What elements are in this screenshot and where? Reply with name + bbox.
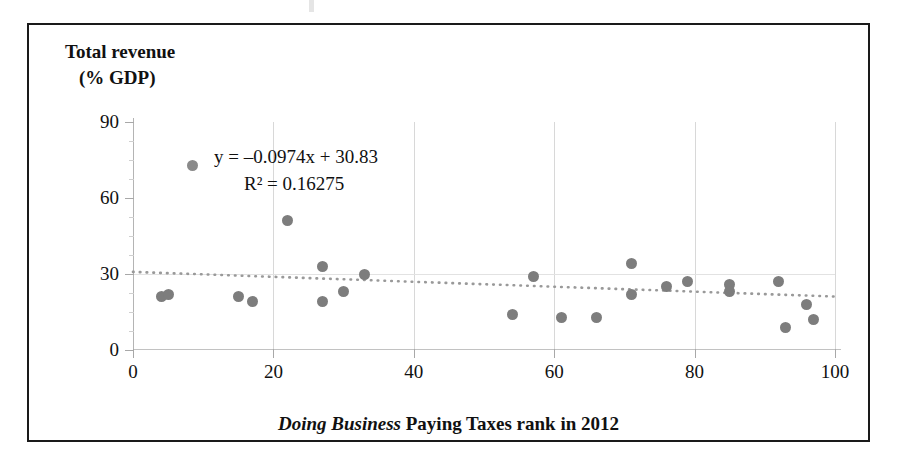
scatter-point — [626, 289, 637, 300]
scatter-point — [780, 322, 791, 333]
x-tick-label-40: 40 — [404, 361, 423, 383]
y-tick-label-60: 60 — [100, 187, 119, 209]
x-tick-label-80: 80 — [685, 361, 704, 383]
regression-r-squared: R² = 0.16275 — [214, 170, 378, 197]
x-tick-0 — [133, 349, 134, 358]
equation-legend-marker-icon — [187, 160, 198, 171]
x-tick-label-0: 0 — [128, 361, 138, 383]
y-axis-title: Total revenue (% GDP) — [65, 39, 175, 91]
x-tick-60 — [554, 349, 555, 358]
scatter-point — [528, 271, 539, 282]
regression-equation: y = –0.0974x + 30.83 — [214, 146, 378, 167]
scatter-point — [317, 261, 328, 272]
scatter-point — [163, 289, 174, 300]
gridline-x-100 — [835, 122, 836, 350]
x-tick-80 — [695, 349, 696, 358]
y-axis-title-line2: (% GDP) — [65, 65, 175, 91]
y-tick-label-90: 90 — [100, 111, 119, 133]
scatter-point — [359, 269, 370, 280]
x-tick-label-100: 100 — [821, 361, 850, 383]
scan-artifact — [309, 0, 314, 12]
x-tick-40 — [414, 349, 415, 358]
scatter-point — [591, 312, 602, 323]
y-axis-title-line1: Total revenue — [65, 41, 175, 62]
regression-annotation: y = –0.0974x + 30.83 R² = 0.16275 — [214, 143, 378, 197]
x-tick-label-20: 20 — [264, 361, 283, 383]
x-tick-label-60: 60 — [545, 361, 564, 383]
y-tick-label-30: 30 — [100, 263, 119, 285]
scatter-point — [556, 312, 567, 323]
x-tick-20 — [273, 349, 274, 358]
figure-frame: Total revenue (% GDP) 0306090 0204060801… — [27, 23, 870, 442]
x-tick-100 — [835, 349, 836, 358]
x-axis-title-rest: Paying Taxes rank in 2012 — [401, 413, 619, 434]
y-tick-label-0: 0 — [110, 339, 120, 361]
scatter-point — [507, 309, 518, 320]
x-axis-title-source: Doing Business — [278, 413, 401, 434]
x-axis-title: Doing Business Paying Taxes rank in 2012 — [29, 413, 868, 435]
